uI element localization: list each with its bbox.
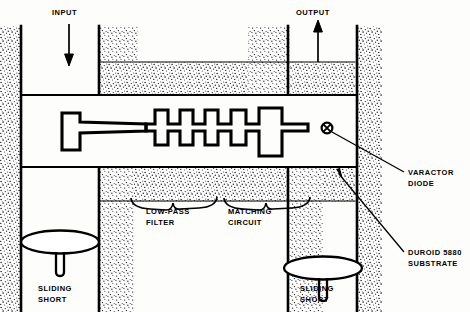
label-low-pass-filter-line1: LOW-PASS: [146, 207, 190, 217]
waveguide-varactor-diagram: [0, 0, 470, 312]
filter-and-matching-trace: [146, 108, 308, 156]
label-sliding-short-right-line1: SLIDING: [300, 284, 334, 294]
label-input: INPUT: [52, 8, 77, 18]
label-low-pass-filter-line2: FILTER: [146, 218, 175, 228]
input-arrow-head: [65, 54, 74, 66]
wall-top-middle: [100, 62, 355, 94]
label-varactor-line2: DIODE: [408, 179, 434, 189]
wall-left-outer: [0, 26, 22, 312]
label-output: OUTPUT: [296, 8, 330, 18]
label-substrate-line1: DUROID 5880: [408, 248, 462, 258]
label-varactor-line1: VARACTOR: [408, 168, 454, 178]
wall-right-inner-upper: [248, 26, 290, 94]
sliding-short-left-disc: [21, 231, 99, 254]
label-matching-circuit-line1: MATCHING: [228, 207, 272, 217]
varactor-diode-symbol: [322, 123, 333, 134]
label-sliding-short-left-line1: SLIDING: [38, 284, 72, 294]
sliding-short-left-stem: [56, 252, 64, 276]
wall-left-inner-lower: [98, 168, 134, 312]
input-coupling-pad: [62, 113, 146, 150]
microstrip-circuit: [62, 108, 308, 156]
label-substrate-line2: SUBSTRATE: [408, 259, 458, 269]
sliding-short-left: [21, 231, 99, 277]
output-arrow-head: [314, 20, 323, 32]
sliding-short-right-disc: [284, 257, 362, 280]
label-sliding-short-left-line2: SHORT: [38, 295, 67, 305]
label-matching-circuit-line2: CIRCUIT: [228, 218, 262, 228]
label-sliding-short-right-line2: SHORT: [300, 295, 329, 305]
